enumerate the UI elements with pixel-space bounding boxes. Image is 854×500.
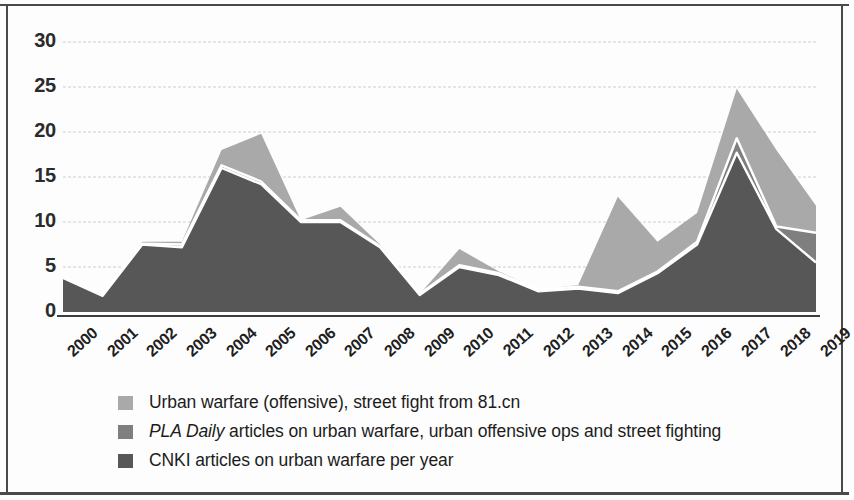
y-tick-label: 20 — [22, 119, 56, 142]
y-tick-label: 25 — [22, 74, 56, 97]
y-tick-label: 5 — [22, 254, 56, 277]
chart-legend: Urban warfare (offensive), street fight … — [118, 388, 818, 475]
legend-item[interactable]: PLA Daily articles on urban warfare, urb… — [118, 417, 818, 446]
legend-swatch-icon — [118, 425, 133, 439]
legend-swatch-icon — [118, 454, 133, 468]
legend-swatch-icon — [118, 396, 133, 410]
y-tick-label: 10 — [22, 209, 56, 232]
legend-label: Urban warfare (offensive), street fight … — [149, 392, 520, 413]
legend-label: CNKI articles on urban warfare per year — [149, 450, 453, 471]
legend-item[interactable]: CNKI articles on urban warfare per year — [118, 446, 818, 475]
legend-label-italic: PLA Daily — [149, 421, 224, 441]
y-tick-label: 15 — [22, 164, 56, 187]
y-tick-label: 30 — [22, 29, 56, 52]
legend-item[interactable]: Urban warfare (offensive), street fight … — [118, 388, 818, 417]
legend-label: PLA Daily articles on urban warfare, urb… — [149, 421, 721, 442]
y-tick-label: 0 — [22, 299, 56, 322]
